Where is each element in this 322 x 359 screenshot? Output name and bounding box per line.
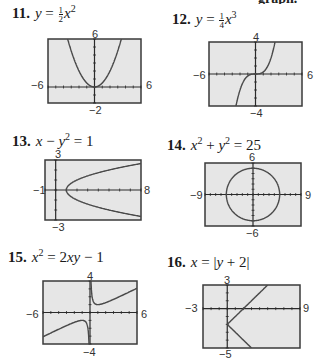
g12-xmax: 6 bbox=[307, 70, 313, 81]
header-fragment: graph. bbox=[258, 0, 297, 4]
problem-12-label: 12.y = 14x3 bbox=[172, 12, 237, 29]
operator: + bbox=[202, 137, 218, 153]
g11-xmax: 6 bbox=[146, 80, 152, 91]
graph-15 bbox=[43, 281, 137, 344]
var: y bbox=[35, 5, 42, 21]
cropped-header-text: graph. bbox=[0, 0, 322, 4]
var: xy bbox=[67, 249, 80, 265]
g13-xmin: −1 bbox=[33, 185, 46, 196]
g14-ymin: −6 bbox=[246, 228, 259, 239]
middle: = | bbox=[197, 254, 216, 270]
equals: = bbox=[202, 11, 218, 27]
g16-xmax: 9 bbox=[303, 303, 309, 314]
rhs: = 25 bbox=[230, 137, 261, 153]
problem-13-label: 13.x − y2 = 1 bbox=[12, 134, 94, 149]
problem-number: 13. bbox=[12, 133, 31, 149]
problem-number: 16. bbox=[167, 254, 186, 270]
g12-ymax: 4 bbox=[253, 32, 259, 43]
g16-ymax: 3 bbox=[224, 275, 230, 286]
problem-15-label: 15.x2 = 2xy − 1 bbox=[8, 250, 104, 265]
rhs: + 2| bbox=[223, 254, 249, 270]
g11-xmin: −6 bbox=[31, 80, 44, 91]
var: x bbox=[225, 11, 232, 27]
operator: − bbox=[42, 133, 58, 149]
g15-ymin: −4 bbox=[83, 347, 96, 358]
graph-11 bbox=[48, 39, 141, 103]
graph-13 bbox=[45, 160, 141, 220]
g15-ymax: 4 bbox=[87, 271, 93, 282]
exponent: 2 bbox=[65, 131, 70, 142]
exponent: 3 bbox=[232, 9, 237, 20]
graph-12 bbox=[209, 42, 302, 106]
problem-number: 12. bbox=[172, 11, 191, 27]
exponent: 2 bbox=[38, 247, 43, 258]
equals: = bbox=[42, 5, 58, 21]
exponent: 2 bbox=[225, 135, 230, 146]
g16-xmin: −3 bbox=[185, 303, 198, 314]
g11-ymin: −2 bbox=[89, 105, 102, 116]
var: x bbox=[64, 5, 71, 21]
problem-number: 11. bbox=[12, 5, 30, 21]
middle: = 2 bbox=[43, 249, 66, 265]
denominator: 4 bbox=[219, 21, 224, 29]
g13-xmax: 8 bbox=[144, 185, 150, 196]
problem-16-label: 16.x = |y + 2| bbox=[167, 255, 250, 270]
g15-xmin: −6 bbox=[26, 309, 39, 320]
rhs: = 1 bbox=[70, 133, 93, 149]
problem-number: 14. bbox=[167, 137, 186, 153]
fraction: 14 bbox=[219, 12, 224, 29]
g14-xmax: 9 bbox=[305, 190, 311, 201]
g12-ymin: −4 bbox=[250, 108, 263, 119]
g15-xmax: 6 bbox=[141, 309, 147, 320]
g14-xmin: −9 bbox=[190, 190, 203, 201]
denominator: 2 bbox=[59, 15, 64, 23]
g11-ymax: 6 bbox=[92, 29, 98, 40]
exponent: 2 bbox=[71, 3, 76, 14]
g13-ymin: −3 bbox=[52, 222, 65, 233]
g13-ymax: 3 bbox=[55, 149, 61, 160]
g12-xmin: −6 bbox=[193, 70, 206, 81]
graph-16 bbox=[203, 285, 300, 348]
problem-14-label: 14.x2 + y2 = 25 bbox=[167, 138, 261, 153]
fraction: 12 bbox=[59, 6, 64, 23]
rhs: − 1 bbox=[80, 249, 103, 265]
problem-11-label: 11.y = 12x2 bbox=[12, 6, 76, 23]
graph-14 bbox=[205, 163, 301, 226]
problem-number: 15. bbox=[8, 249, 27, 265]
g14-ymax: 6 bbox=[249, 152, 255, 163]
exponent: 2 bbox=[197, 135, 202, 146]
g16-ymin: −5 bbox=[219, 349, 232, 359]
